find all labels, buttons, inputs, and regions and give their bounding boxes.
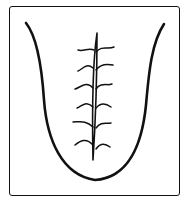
left-cracks <box>73 49 94 145</box>
right-cracks <box>96 47 114 149</box>
tongue-diagram <box>0 0 190 206</box>
